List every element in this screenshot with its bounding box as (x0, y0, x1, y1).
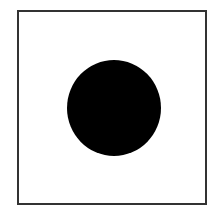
square-frame (17, 10, 207, 205)
filled-circle (67, 60, 161, 156)
